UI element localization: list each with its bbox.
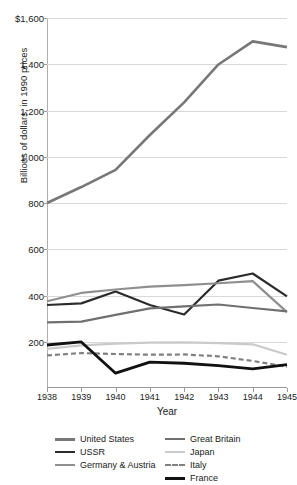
legend-item[interactable]: Germany & Austria	[55, 460, 163, 470]
y-tick-mark	[43, 203, 47, 204]
legend-swatch	[165, 460, 185, 470]
legend-label: France	[190, 473, 218, 483]
legend-swatch	[165, 447, 185, 457]
legend-item[interactable]: Japan	[165, 447, 295, 457]
y-tick-label: 1,400	[20, 59, 44, 70]
x-tick-mark	[81, 388, 82, 392]
x-tick-label: 1942	[174, 392, 194, 402]
x-tick-mark	[218, 388, 219, 392]
y-tick-mark	[43, 157, 47, 158]
x-tick-mark	[184, 388, 185, 392]
x-tick-mark	[287, 388, 288, 392]
legend-swatch	[55, 447, 75, 457]
series-line	[47, 305, 287, 323]
chart-container: Billions of dollars, in 1990 prices $1,6…	[0, 0, 297, 485]
y-tick-label: 200	[28, 336, 44, 347]
y-tick-label: 400	[28, 290, 44, 301]
legend-label: USSR	[80, 447, 105, 457]
x-axis-title: Year	[47, 406, 287, 417]
legend-item[interactable]: Italy	[165, 460, 295, 470]
x-tick-label: 1945	[277, 392, 297, 402]
series-line	[47, 342, 287, 373]
y-tick-label: 1,200	[20, 105, 44, 116]
y-tick-mark	[43, 249, 47, 250]
x-tick-mark	[47, 388, 48, 392]
x-tick-label: 1939	[71, 392, 91, 402]
y-tick-mark	[43, 342, 47, 343]
y-tick-mark	[43, 64, 47, 65]
series-lines	[47, 18, 287, 388]
legend-label: Germany & Austria	[80, 460, 156, 470]
x-tick-label: 1938	[37, 392, 57, 402]
x-tick-mark	[150, 388, 151, 392]
legend-label: Great Britain	[190, 434, 241, 444]
legend-swatch	[165, 473, 185, 483]
y-tick-label: $1,600	[15, 13, 44, 24]
x-tick-label: 1941	[140, 392, 160, 402]
legend-label: Japan	[190, 447, 215, 457]
legend-label: United States	[80, 434, 134, 444]
legend-item[interactable]: France	[165, 473, 295, 483]
y-tick-mark	[43, 18, 47, 19]
x-tick-label: 1940	[106, 392, 126, 402]
y-tick-mark	[43, 296, 47, 297]
y-tick-label: 800	[28, 198, 44, 209]
legend-swatch	[165, 434, 185, 444]
legend-item[interactable]: USSR	[55, 447, 163, 457]
legend-swatch	[55, 434, 75, 444]
legend-column-right: Great BritainJapanItalyFrance	[165, 434, 295, 485]
legend-item[interactable]: Great Britain	[165, 434, 295, 444]
x-tick-label: 1943	[208, 392, 228, 402]
plot-area	[47, 18, 287, 388]
y-tick-label: 600	[28, 244, 44, 255]
y-tick-label: 1,000	[20, 151, 44, 162]
legend-item[interactable]: United States	[55, 434, 163, 444]
legend-swatch	[55, 460, 75, 470]
series-line	[47, 41, 287, 203]
x-tick-label: 1944	[243, 392, 263, 402]
series-line	[47, 353, 287, 367]
legend-label: Italy	[190, 460, 207, 470]
legend-column-left: United StatesUSSRGermany & Austria	[55, 434, 163, 473]
x-tick-mark	[116, 388, 117, 392]
y-tick-mark	[43, 111, 47, 112]
x-tick-mark	[253, 388, 254, 392]
